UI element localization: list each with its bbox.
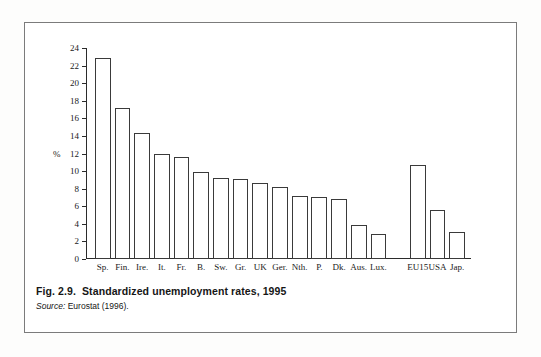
plot-region: 024681012141618202224 Sp.Fin.Ire.It.Fr.B… xyxy=(86,48,471,259)
y-tick-label: 24 xyxy=(70,43,79,53)
bar xyxy=(134,133,150,259)
x-tick-label: Gr. xyxy=(235,262,246,272)
bar xyxy=(430,210,446,259)
y-tick-label: 12 xyxy=(70,149,79,159)
y-tick-mark xyxy=(82,259,86,260)
figure-number: Fig. 2.9. xyxy=(36,285,76,297)
y-tick: 0 xyxy=(86,259,87,260)
x-tick-label: USA xyxy=(429,262,447,272)
x-tick-label: Ger. xyxy=(272,262,287,272)
y-tick-label: 18 xyxy=(70,96,79,106)
bar-series xyxy=(86,48,471,259)
chart-area: % 024681012141618202224 Sp.Fin.Ire.It.Fr… xyxy=(25,23,518,279)
x-tick-label: Aus. xyxy=(350,262,367,272)
y-tick-label: 2 xyxy=(75,236,80,246)
y-tick-label: 14 xyxy=(70,131,79,141)
bar xyxy=(154,154,170,259)
bar xyxy=(252,183,268,259)
figure-page: % 024681012141618202224 Sp.Fin.Ire.It.Fr… xyxy=(0,0,541,357)
figure-caption: Fig. 2.9.Standardized unemployment rates… xyxy=(36,285,506,311)
y-tick-label: 8 xyxy=(75,184,80,194)
x-tick-label: Lux. xyxy=(370,262,387,272)
x-tick-label: Jap. xyxy=(450,262,464,272)
x-tick-label: It. xyxy=(158,262,166,272)
y-tick-label: 20 xyxy=(70,78,79,88)
x-tick-label: Ire. xyxy=(136,262,148,272)
bar xyxy=(292,196,308,259)
figure-frame: % 024681012141618202224 Sp.Fin.Ire.It.Fr… xyxy=(24,22,517,333)
y-tick-label: 22 xyxy=(70,61,79,71)
bar xyxy=(95,58,111,259)
bar xyxy=(311,197,327,259)
bar xyxy=(233,179,249,259)
source-label: Source: xyxy=(36,301,65,311)
bar xyxy=(371,234,387,259)
x-tick-label: EU15 xyxy=(407,262,428,272)
bar xyxy=(331,199,347,259)
x-tick-label: P. xyxy=(316,262,322,272)
bar xyxy=(174,157,190,259)
x-tick-label: Fin. xyxy=(115,262,129,272)
y-tick-label: 6 xyxy=(75,201,80,211)
x-tick-label: Dk. xyxy=(332,262,345,272)
bar xyxy=(193,172,209,259)
x-tick-label: B. xyxy=(197,262,205,272)
y-tick-label: 16 xyxy=(70,113,79,123)
caption-title-line: Fig. 2.9.Standardized unemployment rates… xyxy=(36,285,506,297)
y-tick-label: 4 xyxy=(75,219,80,229)
x-tick-label: Sw. xyxy=(214,262,227,272)
y-tick-label: 10 xyxy=(70,166,79,176)
bar xyxy=(351,225,367,259)
y-axis-unit-label: % xyxy=(53,149,61,159)
y-tick-label: 0 xyxy=(75,254,80,264)
bar xyxy=(272,187,288,259)
caption-source-line: Source: Eurostat (1996). xyxy=(36,301,506,311)
bar xyxy=(410,165,426,259)
bar xyxy=(213,178,229,259)
figure-title: Standardized unemployment rates, 1995 xyxy=(82,285,286,297)
bar xyxy=(449,232,465,259)
source-text: Eurostat (1996). xyxy=(68,301,129,311)
x-tick-label: Fr. xyxy=(177,262,187,272)
x-tick-label: Sp. xyxy=(97,262,109,272)
x-tick-label: UK xyxy=(254,262,267,272)
x-tick-label: Nth. xyxy=(292,262,308,272)
bar xyxy=(115,108,131,259)
